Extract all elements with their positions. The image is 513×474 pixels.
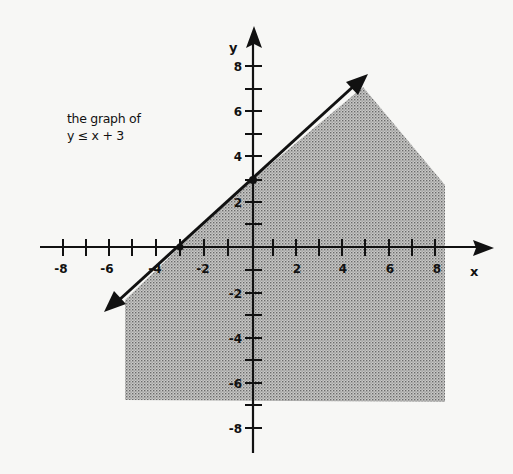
svg-text:-8: -8 bbox=[229, 422, 242, 436]
y-axis-label: y bbox=[229, 40, 238, 55]
svg-text:-6: -6 bbox=[100, 262, 113, 276]
line-arrow-lower-icon bbox=[104, 291, 126, 312]
point-x-intercept bbox=[177, 244, 184, 251]
svg-text:8: 8 bbox=[433, 262, 441, 276]
svg-text:2: 2 bbox=[293, 262, 301, 276]
x-axis-label: x bbox=[470, 264, 479, 279]
svg-text:-8: -8 bbox=[54, 262, 67, 276]
chart-canvas: -8 -6 -4 -2 2 4 6 8 x bbox=[0, 0, 513, 474]
svg-text:-2: -2 bbox=[196, 262, 209, 276]
svg-text:6: 6 bbox=[386, 262, 394, 276]
svg-text:8: 8 bbox=[234, 60, 242, 74]
shaded-region bbox=[125, 87, 445, 402]
point-y-intercept bbox=[249, 176, 257, 184]
svg-text:2: 2 bbox=[234, 196, 242, 210]
svg-text:-4: -4 bbox=[229, 332, 242, 346]
svg-text:-2: -2 bbox=[229, 287, 242, 301]
svg-text:-6: -6 bbox=[229, 377, 242, 391]
graph-annotation: the graph of y ≤ x + 3 bbox=[67, 110, 141, 144]
annotation-line-2: y ≤ x + 3 bbox=[67, 127, 141, 144]
svg-text:4: 4 bbox=[339, 262, 347, 276]
svg-text:6: 6 bbox=[234, 105, 242, 119]
x-axis-arrow-icon bbox=[473, 240, 494, 256]
annotation-line-1: the graph of bbox=[67, 110, 141, 127]
svg-text:4: 4 bbox=[234, 150, 242, 164]
